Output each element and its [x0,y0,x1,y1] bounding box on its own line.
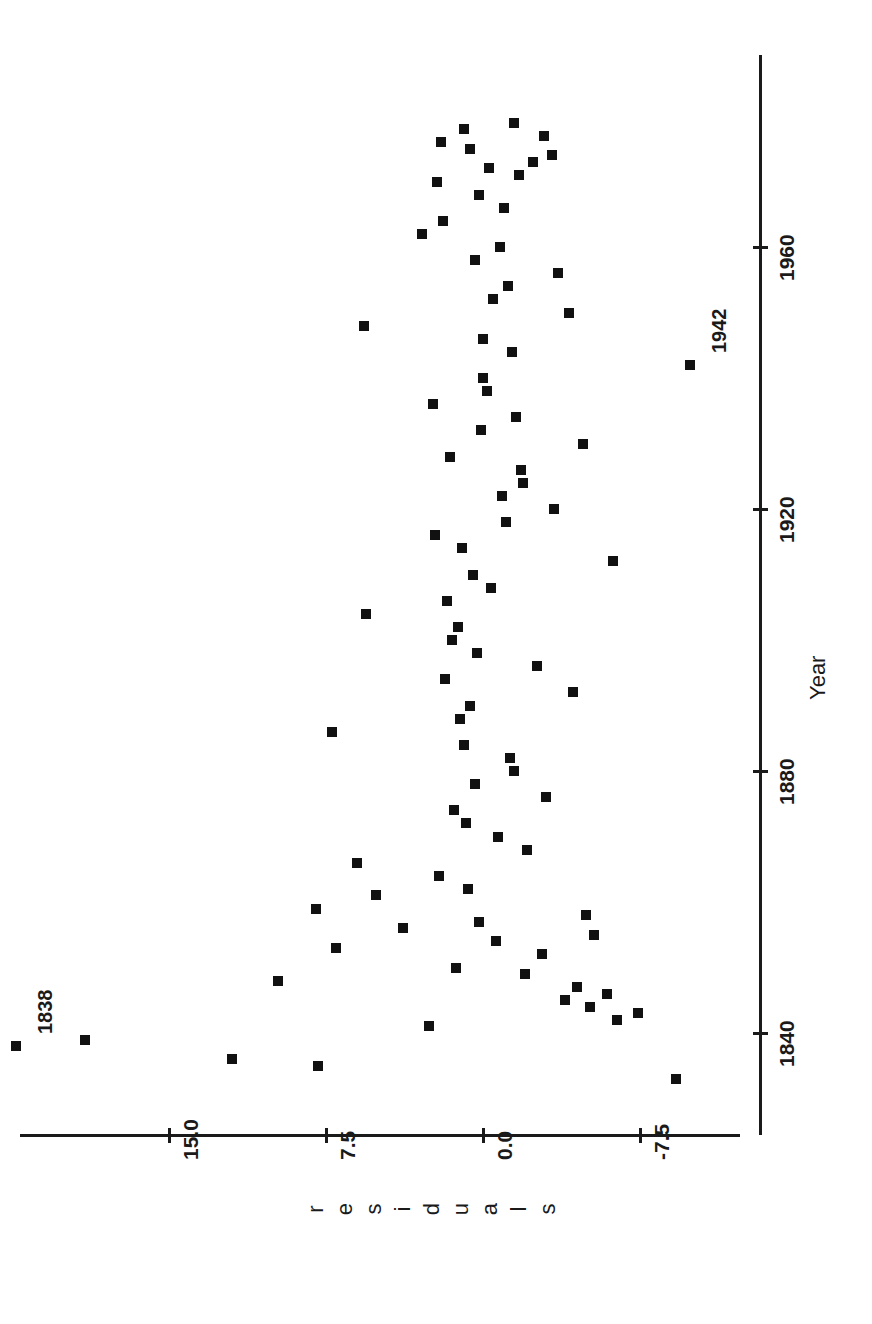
data-point [398,923,408,933]
data-point [578,439,588,449]
data-point [451,963,461,973]
data-point [417,229,427,239]
data-point [539,131,549,141]
year-tick [753,1032,768,1035]
year-tick-label: 1920 [775,496,799,543]
data-point [685,360,695,370]
data-point [463,884,473,894]
data-point [428,399,438,409]
data-point [227,1054,237,1064]
data-point [459,740,469,750]
data-point [499,203,509,213]
data-point [608,556,618,566]
residuals-tick-label: 0.0 [493,1131,517,1160]
data-point [11,1041,21,1051]
data-point [568,687,578,697]
data-point [459,124,469,134]
data-point [449,805,459,815]
data-point [432,177,442,187]
residuals-tick [325,1128,328,1143]
data-point [495,242,505,252]
residuals-title-letter: r [303,1202,329,1217]
year-tick [753,246,768,249]
data-point [430,530,440,540]
residuals-tick-label: -7.5 [650,1124,674,1160]
residuals-axis-title: residuals [308,1196,569,1222]
data-point [361,609,371,619]
data-point [509,766,519,776]
data-point [516,465,526,475]
year-tick-label: 1840 [775,1020,799,1067]
data-point [438,216,448,226]
data-point [509,118,519,128]
data-point [505,753,515,763]
residuals-title-letter: s [535,1202,561,1217]
year-axis-line [759,55,762,1135]
data-point [602,989,612,999]
residuals-axis-line [20,1134,740,1137]
data-point [331,943,341,953]
data-point [436,137,446,147]
data-point [518,478,528,488]
data-point [468,570,478,580]
residuals-title-letter: a [477,1202,503,1217]
data-point [581,910,591,920]
data-point [80,1035,90,1045]
data-point [491,936,501,946]
data-point [514,170,524,180]
data-point [472,648,482,658]
data-point [503,281,513,291]
residuals-tick-label: 15.0 [179,1119,203,1160]
data-point [478,373,488,383]
residuals-title-letter: e [332,1202,358,1217]
data-point [511,412,521,422]
data-point [486,583,496,593]
residuals-tick [639,1128,642,1143]
data-point [465,144,475,154]
data-point [474,917,484,927]
year-tick [753,770,768,773]
data-point [440,674,450,684]
residuals-tick [168,1128,171,1143]
data-point [327,727,337,737]
data-point [507,347,517,357]
data-point [522,845,532,855]
data-point [313,1061,323,1071]
data-point [493,832,503,842]
data-point [371,890,381,900]
data-point [633,1008,643,1018]
year-tick [753,508,768,511]
data-point [478,334,488,344]
residuals-title-letter: l [506,1202,532,1217]
data-point [461,818,471,828]
data-point [488,294,498,304]
data-point [352,858,362,868]
data-point [549,504,559,514]
data-point [465,701,475,711]
data-point [455,714,465,724]
residuals-tick [482,1128,485,1143]
data-point [424,1021,434,1031]
data-point [453,622,463,632]
data-point [457,543,467,553]
residuals-title-letter: u [448,1202,474,1217]
data-point [585,1002,595,1012]
data-point [541,792,551,802]
data-point [434,871,444,881]
data-point [359,321,369,331]
residuals-tick-label: 7.5 [336,1131,360,1160]
residuals-title-letter: i [390,1202,416,1217]
data-point [528,157,538,167]
data-point [442,596,452,606]
data-point [484,163,494,173]
data-point [612,1015,622,1025]
data-point [553,268,563,278]
residuals-title-letter: d [419,1202,445,1217]
data-point [564,308,574,318]
data-point [445,452,455,462]
data-point [470,255,480,265]
point-annotation: 1838 [34,990,57,1035]
year-axis-title: Year [805,656,831,700]
data-point [447,635,457,645]
data-point [501,517,511,527]
